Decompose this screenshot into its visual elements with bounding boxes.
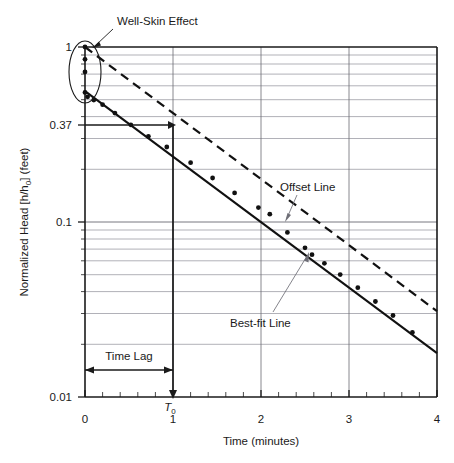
data-point bbox=[146, 134, 151, 139]
data-point bbox=[355, 285, 360, 290]
data-point bbox=[322, 261, 327, 266]
data-point bbox=[83, 57, 88, 62]
data-point bbox=[188, 160, 193, 165]
data-point bbox=[310, 252, 315, 257]
data-point bbox=[303, 245, 308, 250]
y-axis-title-main: Normalized Head [h/h bbox=[18, 185, 30, 296]
data-point bbox=[113, 111, 118, 116]
data-point bbox=[391, 313, 396, 318]
data-point bbox=[338, 272, 343, 277]
y-axis-title-tail: ] (feet) bbox=[18, 147, 30, 180]
x-ticklabel-0: 0 bbox=[82, 413, 88, 425]
data-point bbox=[267, 212, 272, 217]
t-zero-subscript: 0 bbox=[171, 407, 176, 416]
x-ticklabel-4: 4 bbox=[434, 413, 441, 425]
y-ticklabel-1: 1 bbox=[66, 41, 72, 53]
x-ticklabel-3: 3 bbox=[346, 413, 352, 425]
data-point bbox=[128, 122, 133, 127]
data-point bbox=[83, 70, 88, 75]
figure-container: 1 0.37 0.1 0.01 0 1 2 3 4 T0 Time (minut… bbox=[0, 0, 454, 463]
chart-svg: 1 0.37 0.1 0.01 0 1 2 3 4 T0 Time (minut… bbox=[0, 0, 454, 463]
y-ticklabel-0.1: 0.1 bbox=[56, 216, 72, 228]
data-point bbox=[410, 330, 415, 335]
data-point bbox=[100, 102, 105, 107]
data-point bbox=[285, 230, 290, 235]
data-point bbox=[164, 145, 169, 150]
data-point bbox=[256, 205, 261, 210]
data-point bbox=[232, 191, 237, 196]
time-lag-label: Time Lag bbox=[105, 350, 153, 362]
offset-line-label: Offset Line bbox=[280, 181, 335, 193]
y-ticklabel-0.37: 0.37 bbox=[50, 119, 72, 131]
data-point bbox=[83, 45, 88, 50]
data-point bbox=[85, 94, 90, 99]
data-point bbox=[373, 299, 378, 304]
x-axis-title: Time (minutes) bbox=[223, 435, 299, 447]
well-skin-effect-label: Well-Skin Effect bbox=[117, 15, 199, 27]
data-point bbox=[83, 90, 88, 95]
x-ticklabel-2: 2 bbox=[258, 413, 264, 425]
data-point bbox=[210, 176, 215, 181]
best-fit-line-label: Best-fit Line bbox=[230, 317, 291, 329]
y-ticklabel-0.01: 0.01 bbox=[50, 391, 72, 403]
